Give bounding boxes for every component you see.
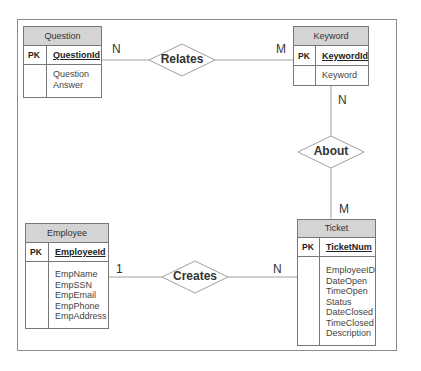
attribute: EmpName — [55, 269, 107, 280]
primary-key: KeywordId — [316, 46, 368, 65]
pk-label: PK — [26, 243, 49, 261]
attribute: EmployeeID — [326, 265, 375, 276]
attribute: Keyword — [322, 70, 357, 81]
cardinality-keyword-about: N — [338, 93, 347, 107]
relationship-relates: Relates — [149, 52, 215, 66]
primary-key: QuestionId — [47, 46, 100, 64]
entity-title: Question — [24, 27, 101, 46]
attribute: DateClosed — [326, 307, 375, 318]
cardinality-ticket-about: M — [339, 202, 349, 216]
cardinality-question-relates: N — [112, 42, 121, 56]
pk-label: PK — [298, 238, 320, 256]
relationship-creates: Creates — [162, 269, 228, 283]
attribute: Answer — [53, 80, 89, 91]
attribute: EmpEmail — [55, 290, 107, 301]
entity-keyword: Keyword PK KeywordId Keyword — [293, 26, 369, 86]
attribute: EmpSSN — [55, 280, 107, 291]
attribute: Status — [326, 297, 375, 308]
cardinality-keyword-relates: M — [276, 42, 286, 56]
cardinality-employee-creates: 1 — [116, 262, 123, 276]
attribute: EmpPhone — [55, 301, 107, 312]
attribute: DateOpen — [326, 276, 375, 287]
entity-title: Employee — [26, 224, 108, 243]
entity-title: Ticket — [298, 220, 375, 238]
relationship-about: About — [298, 144, 364, 158]
pk-label: PK — [24, 46, 47, 64]
attribute: Question — [53, 69, 89, 80]
entity-question: Question PK QuestionId Question Answer — [23, 26, 102, 98]
entity-employee: Employee PK EmployeeId EmpName EmpSSN Em… — [25, 223, 109, 329]
primary-key: TicketNum — [320, 238, 372, 256]
attribute: EmpAddress — [55, 311, 107, 322]
attribute: TimeClosed — [326, 318, 375, 329]
entity-title: Keyword — [294, 27, 368, 46]
entity-ticket: Ticket PK TicketNum EmployeeID DateOpen … — [297, 219, 376, 346]
primary-key: EmployeeId — [49, 243, 106, 261]
cardinality-ticket-creates: N — [273, 262, 282, 276]
pk-label: PK — [294, 46, 316, 65]
attribute: TimeOpen — [326, 286, 375, 297]
attribute: Description — [326, 328, 375, 339]
